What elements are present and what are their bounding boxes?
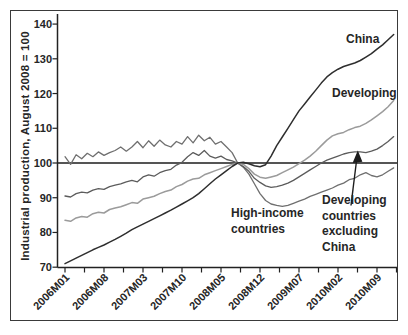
- y-tick-label: 140: [18, 17, 52, 31]
- series-label-high-income-line1: High-income: [231, 206, 304, 222]
- series-label-dev-ex-line4: China: [322, 240, 387, 256]
- series-label-high-income-line2: countries: [231, 222, 304, 238]
- series-line-developing-countries-excluding-china: [65, 137, 394, 197]
- series-label-high-income: High-income countries: [231, 206, 304, 237]
- series-label-china: China: [346, 32, 379, 48]
- y-tick-label: 110: [18, 121, 52, 135]
- y-tick-label: 120: [18, 87, 52, 101]
- y-tick-label: 80: [18, 225, 52, 239]
- y-tick-label: 90: [18, 191, 52, 205]
- series-label-dev-ex-line2: countries: [322, 209, 387, 225]
- y-tick-label: 100: [18, 156, 52, 170]
- series-label-dev-ex-line1: Developing: [322, 193, 387, 209]
- y-tick-label: 130: [18, 52, 52, 66]
- series-label-developing-ex-china: Developing countries excluding China: [322, 193, 387, 255]
- figure: Industrial production, August 2008 = 100…: [0, 0, 408, 335]
- y-tick-label: 70: [18, 260, 52, 274]
- series-label-dev-ex-line3: excluding: [322, 224, 387, 240]
- y-axis-title: Industrial production, August 2008 = 100: [19, 5, 31, 287]
- series-label-developing: Developing: [332, 86, 397, 102]
